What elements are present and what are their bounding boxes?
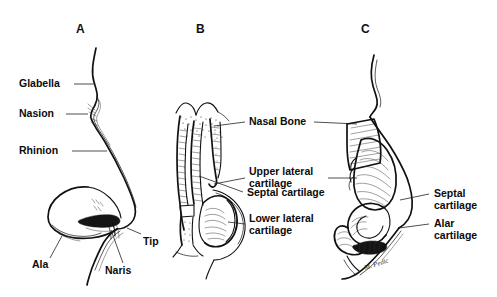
panel-c-artwork: M. Pedic [334,55,412,279]
label-septal-cartilage-b: Septal cartilage [247,187,325,199]
figure-root: M. Pedic A B C Glabella Nasion Rhinion T… [0,0,497,297]
label-rhinion: Rhinion [19,145,58,157]
panel-a-artwork [48,48,136,285]
label-lower-lateral-cartilage: Lower lateral cartilage [249,213,314,236]
leader-naris [111,230,123,263]
label-nasion: Nasion [19,108,54,120]
leader-tip [127,228,141,234]
artist-signature: M. Pedic [362,256,390,272]
leader-ala [50,236,62,258]
label-glabella: Glabella [19,78,60,90]
panel-letter-b: B [196,22,205,36]
panel-letter-a: A [76,22,85,36]
label-ala: Ala [32,259,48,271]
panel-b-artwork [173,103,245,279]
panel-c-leaders [399,194,429,228]
label-tip: Tip [143,236,159,248]
figure-artwork: M. Pedic [0,0,497,297]
leader-nasal-bone-b [214,122,245,126]
label-naris: Naris [105,265,131,277]
leader-septal-cartilage-c [400,194,429,200]
label-septal-cartilage-c: Septal cartilage [434,188,477,211]
panel-letter-c: C [361,22,370,36]
label-nasal-bone: Nasal Bone [249,116,306,128]
leader-septal-cartilage-b [199,176,243,192]
label-alar-cartilage-c: Alar cartilage [434,218,477,241]
